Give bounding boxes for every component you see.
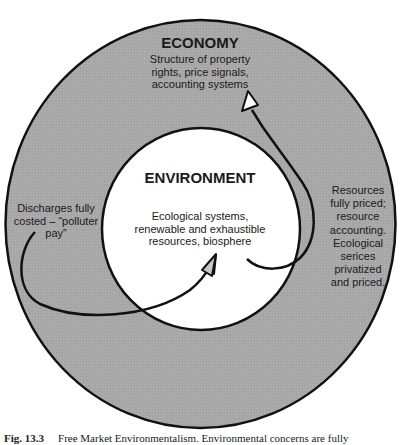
resources-note: Resources fully priced; resource account… bbox=[318, 184, 398, 290]
environment-title: ENVIRONMENT bbox=[120, 169, 280, 186]
figure-number: Fig. 13.3 bbox=[4, 432, 44, 444]
economy-description: Structure of property rights, price sign… bbox=[130, 53, 270, 91]
figure-caption: Fig. 13.3Free Market Environmentalism. E… bbox=[4, 432, 401, 444]
economy-title: ECONOMY bbox=[120, 34, 280, 51]
caption-text: Free Market Environmentalism. Environmen… bbox=[58, 432, 349, 444]
environment-description: Ecological systems, renewable and exhaus… bbox=[120, 210, 280, 248]
discharges-note: Discharges fully costed – “polluter pay” bbox=[6, 202, 106, 240]
